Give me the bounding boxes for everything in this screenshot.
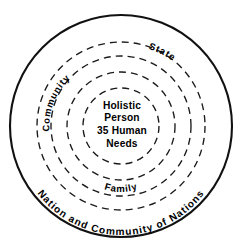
ring-community-circle <box>51 56 191 196</box>
ring-label-state: State <box>148 40 179 63</box>
concentric-circles-diagram: Nation and Community of Nations State Co… <box>0 0 244 252</box>
diagram-canvas: Nation and Community of Nations State Co… <box>0 0 244 252</box>
ring-label-family: Family <box>103 181 138 195</box>
ring-core-circle <box>83 88 159 164</box>
ring-label-nation: Nation and Community of Nations <box>36 188 207 238</box>
